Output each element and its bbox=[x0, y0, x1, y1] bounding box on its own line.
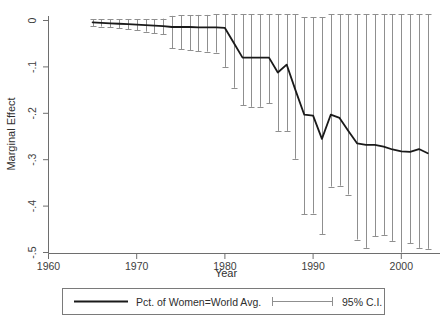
y-tick-label: -.2 bbox=[26, 107, 38, 119]
x-tick-label: 1990 bbox=[301, 260, 325, 272]
y-axis-title: Marginal Effect bbox=[5, 97, 17, 170]
legend: Pct. of Women=World Avg. 95% C.I. bbox=[63, 289, 385, 315]
x-tick-label: 1960 bbox=[37, 260, 61, 272]
marginal-effect-chart: 0-.1-.2-.3-.4-.5 19601970198019902000 Ye… bbox=[0, 0, 446, 322]
y-tick-label: -.3 bbox=[26, 153, 38, 165]
x-tick-label: 1970 bbox=[125, 260, 149, 272]
y-tick-label: 0 bbox=[26, 17, 38, 23]
y-tick-label: -.5 bbox=[26, 246, 38, 258]
x-axis-title: Year bbox=[215, 267, 238, 279]
figure-canvas: 0-.1-.2-.3-.4-.5 19601970198019902000 Ye… bbox=[0, 0, 446, 322]
y-tick-label: -.1 bbox=[26, 61, 38, 73]
x-tick-label: 2000 bbox=[390, 260, 414, 272]
legend-label-ci: 95% C.I. bbox=[342, 296, 382, 308]
legend-label-series: Pct. of Women=World Avg. bbox=[136, 296, 261, 308]
y-tick-label: -.4 bbox=[26, 200, 38, 212]
